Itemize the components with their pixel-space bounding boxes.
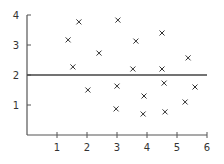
x-marker-icon (66, 37, 71, 42)
y-tick-label: 1 (13, 100, 19, 111)
x-tick-label: 4 (144, 142, 150, 153)
x-marker-icon (115, 18, 120, 23)
x-marker-icon (70, 64, 75, 69)
x-marker-icon (76, 19, 81, 24)
x-marker-icon (130, 67, 135, 72)
x-marker-icon (142, 94, 147, 99)
x-marker-icon (183, 100, 188, 105)
x-marker-icon (160, 31, 165, 36)
data-points (66, 18, 198, 117)
scatter-chart: 1234561234 (0, 0, 224, 164)
x-marker-icon (97, 51, 102, 56)
x-tick-label: 6 (204, 142, 210, 153)
y-tick-label: 2 (13, 70, 19, 81)
x-marker-icon (133, 39, 138, 44)
x-marker-icon (186, 55, 191, 60)
x-marker-icon (141, 112, 146, 117)
x-tick-label: 1 (54, 142, 60, 153)
x-tick-label: 2 (84, 142, 90, 153)
y-tick-label: 3 (13, 40, 19, 51)
axes: 1234561234 (13, 10, 211, 154)
x-marker-icon (163, 109, 168, 114)
chart-canvas: 1234561234 (0, 0, 224, 164)
x-marker-icon (114, 106, 119, 111)
x-marker-icon (193, 85, 198, 90)
x-tick-label: 5 (174, 142, 180, 153)
x-tick-label: 3 (114, 142, 120, 153)
x-marker-icon (160, 67, 165, 72)
y-tick-label: 4 (13, 10, 19, 21)
x-marker-icon (162, 81, 167, 86)
x-marker-icon (115, 84, 120, 89)
x-marker-icon (85, 88, 90, 93)
